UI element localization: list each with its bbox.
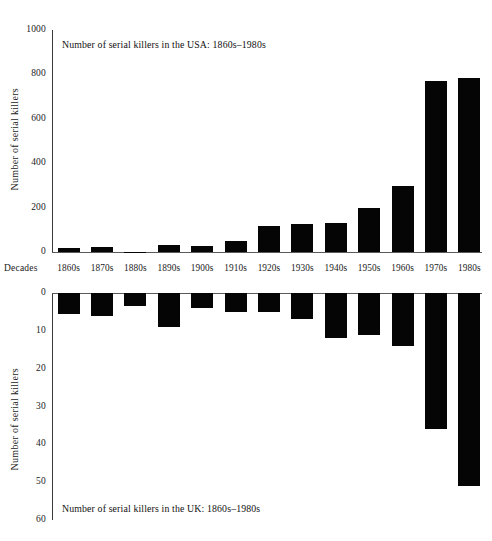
bottom-chart-y-tick: 40 (6, 439, 46, 449)
bottom-chart-bar (258, 293, 280, 312)
decades-tick: 1910s (219, 264, 252, 274)
top-chart-bar (158, 245, 180, 252)
top-chart-y-tick: 600 (6, 114, 46, 124)
bottom-chart-y-axis-label: Number of serial killers (10, 368, 20, 470)
bottom-chart-title: Number of serial killers in the UK: 1860… (62, 504, 260, 514)
bottom-chart-y-tick: 10 (6, 326, 46, 336)
decades-tick: 1870s (85, 264, 118, 274)
bottom-chart-bar (124, 293, 146, 306)
top-chart-bar (358, 208, 380, 252)
top-chart-baseline (52, 252, 482, 253)
bottom-chart-bar (191, 293, 213, 308)
top-chart-y-tick: 200 (6, 203, 46, 213)
bottom-chart-y-axis-line (52, 293, 53, 520)
top-chart-y-tick: 1000 (6, 25, 46, 35)
decades-tick: 1960s (386, 264, 419, 274)
top-chart-bar (325, 223, 347, 252)
decades-tick: 1970s (419, 264, 452, 274)
top-chart-y-axis-line (52, 30, 53, 252)
bottom-chart-bar (325, 293, 347, 338)
bottom-chart-y-tick: 50 (6, 477, 46, 487)
bottom-chart-y-tick: 20 (6, 364, 46, 374)
bottom-chart-bar (91, 293, 113, 316)
bottom-chart-bar (58, 293, 80, 314)
bottom-chart-bar (291, 293, 313, 319)
top-chart-title: Number of serial killers in the USA: 186… (62, 40, 266, 50)
top-chart-bar (191, 246, 213, 252)
top-chart-bar (225, 241, 247, 252)
decades-tick: 1880s (119, 264, 152, 274)
decades-tick: 1950s (352, 264, 385, 274)
top-chart-y-axis-label: Number of serial killers (10, 88, 20, 190)
decades-tick: 1920s (252, 264, 285, 274)
top-chart-bar (58, 248, 80, 252)
bottom-chart-bar (392, 293, 414, 346)
decades-tick: 1900s (186, 264, 219, 274)
top-chart-bar (91, 247, 113, 252)
top-chart-y-tick: 400 (6, 158, 46, 168)
bottom-chart-bar (225, 293, 247, 312)
top-chart-y-tick: 0 (6, 247, 46, 257)
top-chart-bar (124, 252, 146, 253)
bottom-chart-bar (458, 293, 480, 486)
top-chart-y-tick: 800 (6, 69, 46, 79)
top-chart-bar (425, 81, 447, 252)
bottom-chart-bar (358, 293, 380, 335)
decades-tick: 1890s (152, 264, 185, 274)
top-chart-bar (392, 186, 414, 252)
figure-root: Number of serial killers 100080060040020… (0, 0, 492, 541)
decades-tick: 1940s (319, 264, 352, 274)
decades-axis-label: Decades (4, 264, 38, 274)
decades-tick: 1980s (453, 264, 486, 274)
top-chart-bar (258, 226, 280, 252)
bottom-chart-bar (158, 293, 180, 327)
bottom-chart-y-tick: 0 (6, 288, 46, 298)
decades-tick: 1860s (52, 264, 85, 274)
bottom-chart-bar (425, 293, 447, 429)
bottom-chart-y-tick: 30 (6, 402, 46, 412)
decades-tick: 1930s (286, 264, 319, 274)
top-chart-bar (458, 78, 480, 252)
top-chart-bar (291, 224, 313, 252)
bottom-chart-y-tick: 60 (6, 515, 46, 525)
